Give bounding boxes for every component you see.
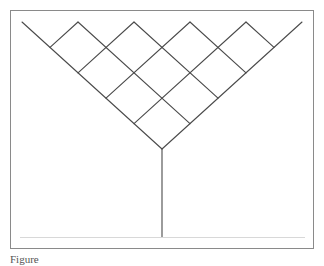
lattice-line-down-right [134, 22, 218, 98]
lattice-line-down-right [246, 22, 274, 47]
v-lattice [22, 22, 302, 149]
figure-caption: Figure [10, 253, 320, 266]
lattice-line-down-left [50, 22, 78, 47]
lattice-line-down-left [106, 22, 190, 98]
left-arm-line [22, 22, 162, 149]
right-arm-line [162, 22, 302, 149]
